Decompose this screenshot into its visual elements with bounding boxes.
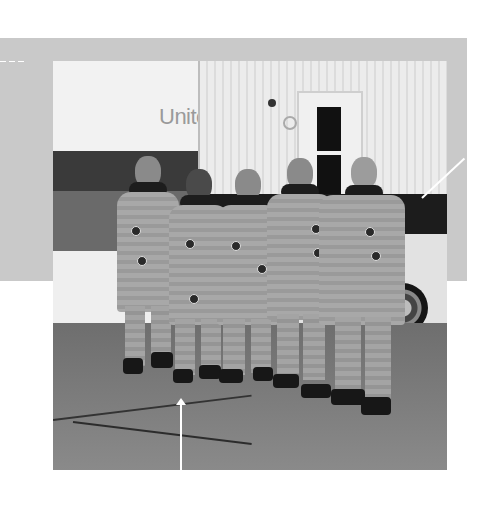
flag-icon xyxy=(132,107,157,127)
crew-photo: Unite xyxy=(53,61,447,470)
dashed-leader-line xyxy=(0,61,24,62)
up-arrow-icon xyxy=(176,398,186,405)
hangar-building: Unite xyxy=(53,61,203,151)
trailer-fixture xyxy=(283,116,297,130)
astronaut-5 xyxy=(319,157,409,417)
door-window-upper xyxy=(317,107,341,151)
trailer-lamp xyxy=(268,99,276,107)
up-arrow-shaft xyxy=(180,403,182,470)
